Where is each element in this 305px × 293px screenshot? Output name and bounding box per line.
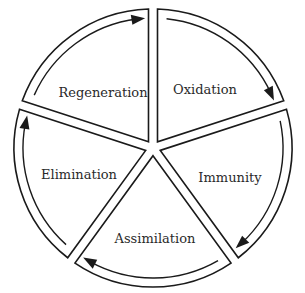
segment-label-elimination: Elimination: [41, 167, 118, 182]
segment-label-regeneration: Regeneration: [58, 85, 148, 100]
segment-label-oxidation: Oxidation: [173, 82, 237, 97]
segment-label-immunity: Immunity: [198, 170, 262, 185]
segment-label-assimilation: Assimilation: [114, 231, 196, 246]
cycle-diagram: Oxidation Immunity Assimilation Eliminat…: [0, 0, 305, 293]
